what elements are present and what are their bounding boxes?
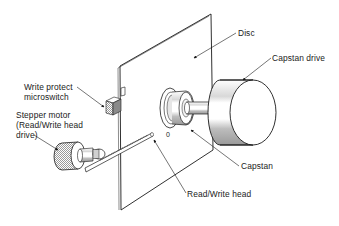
write-protect-leader xyxy=(77,87,104,107)
label-disc: Disc xyxy=(238,28,255,38)
label-write-protect-line2: microswitch xyxy=(24,92,69,102)
capstan-drive-motor xyxy=(208,80,276,145)
label-stepper-line2: (Read/Write head xyxy=(16,120,83,130)
label-stepper-line1: Stepper motor xyxy=(16,110,70,120)
label-stepper-line3: drive) xyxy=(16,130,38,140)
label-write-protect-line1: Write protect xyxy=(24,82,73,92)
disc-drive-diagram: Disc Capstan drive Write protect microsw… xyxy=(0,0,339,226)
label-hub-mark: 0 xyxy=(166,130,170,140)
label-capstan-drive: Capstan drive xyxy=(272,53,325,63)
label-read-write-head: Read/Write head xyxy=(187,189,251,199)
label-capstan: Capstan xyxy=(241,161,273,171)
capstan-drive-leader xyxy=(243,58,271,80)
